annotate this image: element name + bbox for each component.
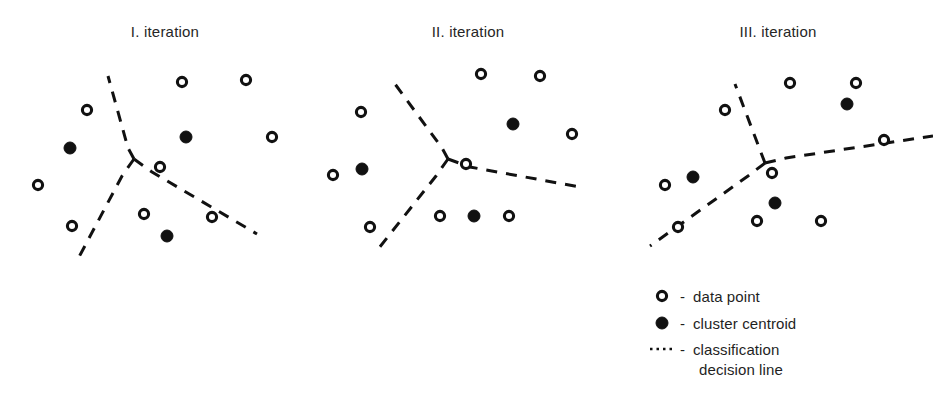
cluster-centroid — [64, 142, 76, 154]
panel-title-1: I. iteration — [131, 23, 199, 40]
legend-label-data-point: data point — [693, 288, 761, 305]
data-point — [82, 105, 91, 114]
data-point — [504, 211, 513, 220]
data-point — [207, 212, 216, 221]
cluster-centroid — [161, 230, 173, 242]
data-point — [365, 222, 374, 231]
cluster-centroid — [356, 163, 368, 175]
data-point — [476, 69, 485, 78]
panel-title-2: II. iteration — [432, 23, 505, 40]
filled-circle-icon — [656, 317, 668, 329]
legend-label-decision-line: decision line — [699, 361, 783, 378]
legend-label-cluster-centroid: cluster centroid — [693, 315, 796, 332]
figure-background — [0, 0, 933, 404]
data-point — [567, 129, 576, 138]
data-point — [673, 222, 682, 231]
data-point — [139, 209, 148, 218]
cluster-centroid — [769, 197, 781, 209]
data-point — [67, 221, 76, 230]
data-point — [752, 216, 761, 225]
data-point — [328, 170, 337, 179]
data-point — [241, 75, 250, 84]
data-point — [816, 216, 825, 225]
data-point — [33, 180, 42, 189]
data-point — [356, 107, 365, 116]
data-point — [720, 105, 729, 114]
cluster-centroid — [468, 210, 480, 222]
cluster-centroid — [687, 171, 699, 183]
legend-label-classification: classification — [693, 341, 779, 358]
data-point — [435, 211, 444, 220]
data-point — [660, 180, 669, 189]
data-point — [155, 162, 164, 171]
legend-separator-3: - — [680, 341, 685, 358]
cluster-centroid — [507, 118, 519, 130]
open-circle-icon — [657, 291, 666, 300]
legend-separator-2: - — [680, 315, 685, 332]
data-point — [461, 159, 470, 168]
cluster-centroid — [180, 131, 192, 143]
data-point — [177, 77, 186, 86]
cluster-centroid — [841, 98, 853, 110]
data-point — [785, 78, 794, 87]
kmeans-iterations-figure: I. iteration II. iteration — [0, 0, 933, 404]
data-point — [535, 71, 544, 80]
panel-title-3: III. iteration — [739, 23, 816, 40]
legend-separator-1: - — [680, 288, 685, 305]
data-point — [851, 78, 860, 87]
data-point — [767, 168, 776, 177]
data-point — [267, 132, 276, 141]
data-point — [879, 135, 888, 144]
